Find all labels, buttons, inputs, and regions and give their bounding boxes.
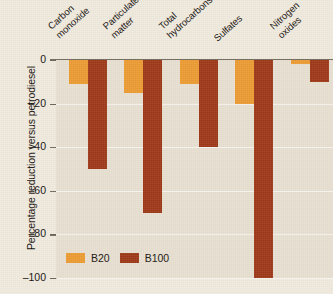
bar-b20-1 [124, 60, 143, 93]
bar-b100-3 [254, 60, 273, 278]
gridline [56, 234, 333, 235]
bar-b20-0 [69, 60, 88, 84]
legend-swatch-b20 [66, 253, 85, 263]
plot-area [56, 60, 333, 278]
legend-item-b100[interactable]: B100 [120, 252, 170, 264]
y-tick-label: –100 [6, 271, 46, 283]
y-tick-label: 0 [6, 53, 46, 65]
chart-figure: Percentage reduction versus petrodiesel … [0, 0, 333, 294]
legend-swatch-b100 [120, 253, 139, 263]
legend-label: B20 [91, 252, 110, 264]
category-label-1: Particulatematter [101, 0, 163, 56]
gridline [56, 278, 333, 279]
bar-b20-3 [235, 60, 254, 104]
y-tick-label: –20 [6, 97, 46, 109]
y-tick-label: –60 [6, 184, 46, 196]
bar-b20-4 [291, 60, 310, 64]
bar-b100-0 [88, 60, 107, 169]
category-label-2: Totalhydrocarbons [156, 0, 228, 56]
chart-legend: B20B100 [66, 252, 169, 264]
bar-b20-2 [180, 60, 199, 84]
bar-b100-2 [199, 60, 218, 147]
y-tick-label: –80 [6, 227, 46, 239]
y-tick-label: –40 [6, 140, 46, 152]
gridline [56, 191, 333, 192]
legend-label: B100 [145, 252, 170, 264]
legend-item-b20[interactable]: B20 [66, 252, 110, 264]
bar-b100-4 [310, 60, 329, 82]
category-label-0: Carbonmonoxide [46, 0, 106, 56]
category-label-4: Nitrogenoxides [267, 0, 323, 56]
bar-b100-1 [143, 60, 162, 213]
